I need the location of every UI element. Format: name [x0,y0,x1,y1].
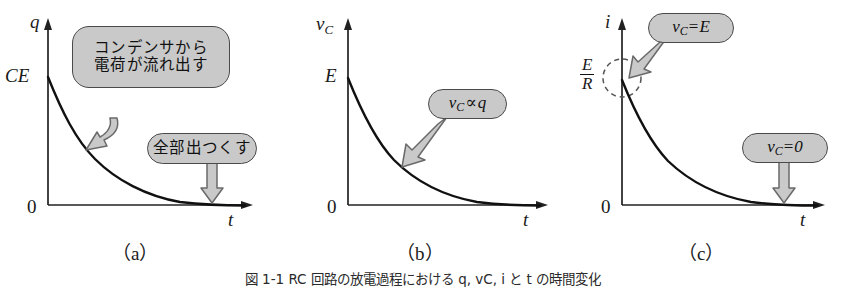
y-tick-E-over-R: E R [580,56,594,93]
callout-vc-equals-e[interactable]: vC=E [648,13,734,43]
y-axis-arrowhead [44,18,52,30]
sublabel-a: （a） [112,238,158,265]
x-axis-label-t: t [523,210,528,229]
origin-label-b: 0 [327,197,337,216]
callout-vc-equals-zero-text: vC=0 [767,137,803,159]
panel-c: i t E R 0 vC=E vC=0 [564,0,846,240]
y-tick-denominator: R [580,74,594,93]
sublabel-c: （c） [678,238,724,265]
callout-arrow-vc-equals-zero [773,161,795,203]
y-axis-label-vc: vC [316,14,333,36]
callout-depleted-line1: 全部出つくす [153,140,251,157]
y-axis-label-vc-sub: C [324,22,333,37]
y-axis-label-i: i [605,12,610,31]
panel-a: q t CE 0 コンデンサから 電荷が流れ出す 全部出つくす [0,0,282,240]
y-axis-arrowhead [344,18,352,30]
x-axis-label-t: t [800,210,805,229]
callout-arrow-depleted [201,161,223,203]
y-axis-label-q: q [30,12,40,31]
y-axis-arrowhead [618,18,626,30]
y-tick-CE: CE [5,66,29,85]
x-axis-label-t: t [228,210,233,229]
callout-vc-equals-e-text: vC=E [672,17,710,39]
y-tick-numerator: E [580,56,594,74]
figure-caption: 図 1-1 RC 回路の放電過程における q, vC, i と t の時間変化 [0,268,846,288]
callout-proportional[interactable]: vC∝q [428,89,507,119]
callout-discharge-line1: コンデンサから [94,40,208,57]
panel-b: vC t E 0 vC∝q [282,0,564,240]
sublabel-b: （b） [396,238,444,265]
callout-discharge-line2: 電荷が流れ出す [94,57,208,74]
origin-label-c: 0 [601,197,611,216]
callout-arrow-discharge [86,118,118,150]
origin-label-a: 0 [27,197,37,216]
callout-arrow-proportional [402,117,447,167]
callout-discharge[interactable]: コンデンサから 電荷が流れ出す [72,26,230,88]
callout-proportional-text: vC∝q [449,93,487,115]
callout-vc-equals-zero[interactable]: vC=0 [742,133,828,163]
callout-depleted[interactable]: 全部出つくす [147,133,257,164]
y-tick-E: E [325,66,337,85]
